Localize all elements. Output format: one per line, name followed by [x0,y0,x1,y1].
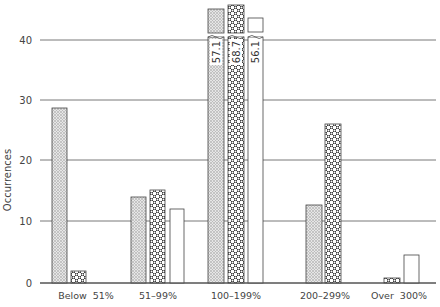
category-below-51: Below 51% [58,290,114,301]
bar-white-top [248,18,263,32]
bar-checker [325,124,341,283]
x-axis-labels: Below 51% 51–99% 100–199% 200–299% Over … [58,290,427,301]
bar-checker [71,271,86,283]
y-tick-40: 40 [19,35,32,46]
bar-checker [150,190,165,283]
bar-dotted [52,108,67,283]
y-axis-label: Occurrences [2,149,13,211]
category-200-299: 200–299% [300,290,350,301]
value-label-68-7: 68.7 [231,41,242,63]
bar-group-51-99 [131,190,184,283]
y-tick-10: 10 [19,216,32,227]
category-over-300: Over 300% [371,290,427,301]
y-tick-0: 0 [26,278,32,289]
bar-group-200-299 [306,124,341,283]
category-51-99: 51–99% [139,290,177,301]
category-100-199: 100–199% [211,290,261,301]
bar-checker-bottom [228,37,244,283]
value-label-56-1: 56.1 [250,41,261,63]
bar-dotted-top [208,9,224,33]
y-tick-30: 30 [19,95,32,106]
bar-chart: Occurrences 0 10 20 30 40 [0,0,440,307]
bar-group-over-300 [384,255,419,283]
bar-dotted [131,197,146,283]
value-label-57-1: 57.1 [211,41,222,63]
bar-white [170,209,184,283]
y-tick-20: 20 [19,155,32,166]
bar-group-below-51 [52,108,86,283]
bar-white [404,255,419,283]
bar-group-100-199: 57.1 68.7 56.1 [208,5,263,283]
bar-checker-top [228,5,244,33]
bar-dotted [306,205,322,283]
bar-dotted-bottom [208,37,224,283]
bar-checker [384,278,400,283]
bar-white-bottom [248,37,263,283]
